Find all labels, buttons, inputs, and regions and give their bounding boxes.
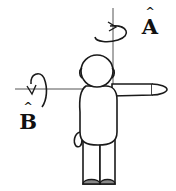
- extended-arm: [112, 84, 152, 96]
- axis-a-label: ^ A: [139, 8, 161, 37]
- head: [81, 55, 113, 87]
- rotation-arrow-a-icon: [95, 22, 126, 42]
- left-shoe: [83, 180, 100, 185]
- axis-b-label: ^ B: [17, 103, 39, 132]
- human-figure: [74, 55, 167, 184]
- axis-a-letter: A: [139, 16, 161, 37]
- right-shoe: [100, 180, 115, 185]
- axis-b-letter: B: [17, 111, 39, 132]
- torso: [80, 86, 117, 145]
- hand-tip: [152, 84, 167, 95]
